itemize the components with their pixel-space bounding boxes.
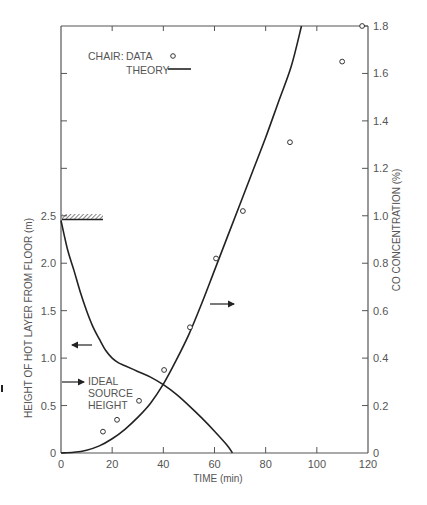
data-point xyxy=(115,417,120,422)
ceiling-marker xyxy=(62,214,103,220)
chart: 020406080100120 00.51.01.52.02.5 00.20.4… xyxy=(0,0,427,505)
data-point xyxy=(288,140,293,145)
x-axis-title: TIME (min) xyxy=(193,473,242,484)
data-point xyxy=(360,24,365,29)
data-point xyxy=(137,398,142,403)
y-right-tick-label: 0.6 xyxy=(373,305,388,317)
ideal-source-label-line1: IDEAL xyxy=(88,375,119,387)
legend-theory-label: THEORY xyxy=(126,64,170,76)
x-tick-label: 80 xyxy=(260,458,272,470)
data-point xyxy=(101,429,106,434)
x-axis-ticks: 020406080100120 xyxy=(58,447,377,470)
data-point xyxy=(340,59,345,64)
y-right-tick-label: 1.4 xyxy=(373,115,388,127)
y-right-axis-title: CO CONCENTRATION (%) xyxy=(391,169,402,292)
y-left-axis-title: HEIGHT OF HOT LAYER FROM FLOOR (m) xyxy=(23,218,34,418)
ideal-source-label-line3: HEIGHT xyxy=(88,399,128,411)
legend: CHAIR: DATA THEORY xyxy=(88,50,191,76)
x-tick-label: 20 xyxy=(106,458,118,470)
y-right-axis-ticks: 00.20.40.60.81.01.21.41.61.8 xyxy=(362,20,388,459)
x-tick-label: 40 xyxy=(157,458,169,470)
height-theory-curve xyxy=(61,221,232,453)
legend-title: CHAIR: xyxy=(88,50,124,62)
x-tick-label: 60 xyxy=(208,458,220,470)
y-left-tick-label: 2.5 xyxy=(41,210,56,222)
y-left-tick-label: 1.0 xyxy=(41,352,56,364)
y-right-tick-label: 0 xyxy=(373,447,379,459)
y-left-axis-ticks: 00.51.01.52.02.5 xyxy=(41,73,67,459)
y-right-tick-label: 1.2 xyxy=(373,162,388,174)
data-point xyxy=(214,256,219,261)
y-right-tick-label: 1.8 xyxy=(373,20,388,32)
x-tick-label: 0 xyxy=(58,458,64,470)
y-right-tick-label: 0.2 xyxy=(373,400,388,412)
top-axis-ticks xyxy=(112,26,317,31)
y-left-tick-label: 1.5 xyxy=(41,305,56,317)
y-left-tick-label: 2.0 xyxy=(41,257,56,269)
y-right-tick-label: 1.6 xyxy=(373,67,388,79)
y-right-tick-label: 0.4 xyxy=(373,352,388,364)
y-right-tick-label: 1.0 xyxy=(373,210,388,222)
legend-data-marker-icon xyxy=(171,54,176,59)
data-point xyxy=(162,368,167,373)
data-point xyxy=(240,209,245,214)
y-left-tick-label: 0 xyxy=(50,447,56,459)
ideal-source-label-line2: SOURCE xyxy=(88,387,133,399)
y-right-tick-label: 0.8 xyxy=(373,257,388,269)
legend-data-label: DATA xyxy=(126,50,152,62)
x-tick-label: 100 xyxy=(308,458,326,470)
x-tick-label: 120 xyxy=(359,458,377,470)
y-left-tick-label: 0.5 xyxy=(41,400,56,412)
data-point xyxy=(188,325,193,330)
